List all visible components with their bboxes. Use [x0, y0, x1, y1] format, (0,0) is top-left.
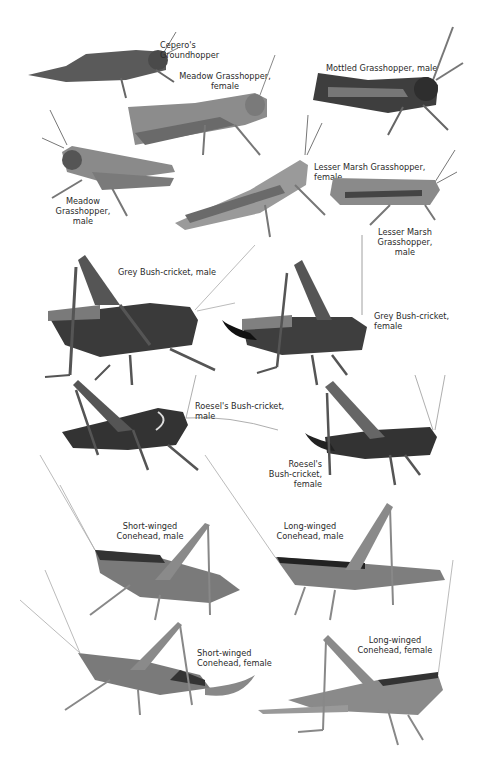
- species-plate: Cepero's Groundhopper Meadow Grasshopper…: [0, 0, 478, 763]
- roesels-bush-cricket-male-label: Roesel's Bush-cricket, male: [195, 401, 284, 421]
- lesser-marsh-grasshopper-male-label: Lesser Marsh Grasshopper, male: [370, 227, 440, 257]
- short-winged-conehead-male-label: Short-winged Conehead, male: [110, 521, 190, 541]
- grey-bush-cricket-male-image: [40, 245, 250, 380]
- short-winged-conehead-female-image: [20, 570, 265, 715]
- long-winged-conehead-female-label: Long-winged Conehead, female: [355, 635, 435, 655]
- grey-bush-cricket-female-label: Grey Bush-cricket, female: [374, 311, 449, 331]
- lesser-marsh-grasshopper-female-image: [170, 115, 330, 235]
- long-winged-conehead-male-label: Long-winged Conehead, male: [270, 521, 350, 541]
- grey-bush-cricket-female-image: [222, 255, 382, 375]
- meadow-grasshopper-male-label: Meadow Grasshopper, male: [48, 196, 118, 226]
- mottled-grasshopper-male-image: [308, 25, 473, 140]
